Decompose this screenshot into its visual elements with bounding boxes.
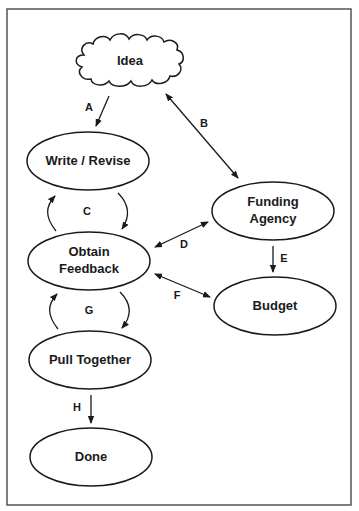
- node-label-funding-agency-line1: Funding: [247, 194, 298, 209]
- edge-b: B: [166, 94, 238, 178]
- edge-e: E: [273, 246, 288, 272]
- node-label-write-revise: Write / Revise: [45, 153, 130, 168]
- edge-label-b: B: [200, 117, 208, 129]
- arrow-g-down: [120, 292, 129, 328]
- flowchart-canvas: Idea Write / Revise Funding Agency Obtai…: [0, 0, 359, 511]
- edge-label-d: D: [180, 238, 188, 250]
- node-funding-agency: Funding Agency: [212, 182, 334, 240]
- arrow-g-up: [50, 294, 58, 329]
- node-idea: Idea: [76, 34, 183, 86]
- node-label-obtain-feedback-line1: Obtain: [68, 244, 109, 259]
- edge-label-g: G: [85, 304, 94, 316]
- node-pull-together: Pull Together: [29, 331, 151, 389]
- node-label-pull-together: Pull Together: [49, 352, 131, 367]
- edge-f: F: [155, 274, 210, 301]
- node-label-done: Done: [75, 449, 108, 464]
- node-budget: Budget: [214, 277, 336, 335]
- edge-h: H: [73, 395, 91, 423]
- node-label-obtain-feedback-line2: Feedback: [59, 261, 120, 276]
- edge-label-e: E: [280, 252, 287, 264]
- edge-c: C: [48, 193, 128, 231]
- edge-label-h: H: [73, 401, 81, 413]
- edge-label-f: F: [174, 289, 181, 301]
- edge-g: G: [50, 292, 130, 329]
- node-done: Done: [30, 428, 152, 486]
- arrow-a: [96, 96, 109, 126]
- arrow-c-down: [118, 193, 128, 229]
- node-write-revise: Write / Revise: [27, 132, 149, 190]
- arrow-b: [166, 94, 238, 178]
- node-label-budget: Budget: [253, 298, 298, 313]
- edge-d: D: [155, 222, 208, 250]
- node-obtain-feedback: Obtain Feedback: [28, 232, 150, 290]
- node-label-idea: Idea: [117, 53, 144, 68]
- arrow-f: [155, 274, 210, 297]
- node-label-funding-agency-line2: Agency: [250, 211, 298, 226]
- edge-label-c: C: [83, 205, 91, 217]
- edge-a: A: [85, 96, 109, 126]
- edge-label-a: A: [85, 101, 93, 113]
- arrow-c-up: [48, 196, 56, 231]
